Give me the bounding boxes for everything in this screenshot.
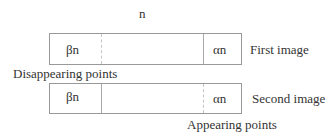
first-image-label: First image (250, 43, 309, 56)
appearing-points-label: Appearing points (187, 118, 277, 131)
second-image-alpha-divider (203, 84, 204, 113)
second-image-beta-divider (101, 84, 102, 113)
second-image-bar: βn αn (49, 83, 242, 114)
first-image-beta-label: βn (66, 43, 79, 56)
second-image-label: Second image (252, 92, 325, 105)
second-image-alpha-label: αn (213, 92, 226, 105)
first-image-alpha-label: αn (213, 43, 226, 56)
disappearing-points-label: Disappearing points (13, 67, 117, 80)
first-image-beta-divider (101, 34, 102, 64)
first-image-bar: βn αn (49, 33, 242, 65)
first-image-alpha-divider (203, 34, 204, 64)
total-length-label: n (139, 7, 146, 20)
second-image-beta-label: βn (66, 90, 79, 103)
